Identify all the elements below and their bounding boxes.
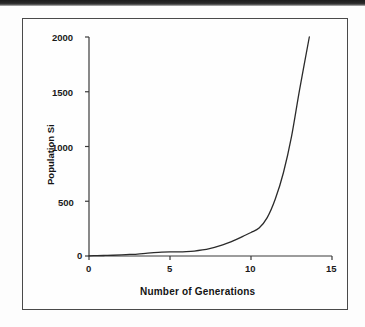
x-tick-label: 0 — [86, 263, 91, 274]
y-axis-title: Population Si — [45, 124, 56, 185]
chart-area: 2000 1500 1000 500 0 0 5 10 15 Populatio… — [0, 0, 365, 327]
x-tick-label: 5 — [167, 263, 172, 274]
x-tick-label: 15 — [326, 263, 337, 274]
y-tick-label: 500 — [58, 197, 74, 208]
y-tick-label: 0 — [77, 250, 82, 261]
y-tick-label: 2000 — [52, 32, 73, 43]
x-axis-title: Number of Generations — [140, 286, 255, 297]
x-tick-label: 10 — [245, 263, 256, 274]
y-tick-label: 1500 — [52, 87, 73, 98]
population-curve — [89, 37, 309, 256]
